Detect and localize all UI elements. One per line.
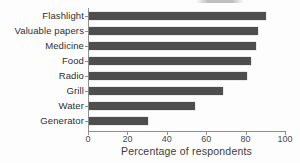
x-axis-tick-label: 40 — [154, 134, 180, 144]
y-axis-tick — [85, 76, 88, 77]
bar — [89, 117, 148, 125]
y-axis-tick — [85, 46, 88, 47]
bar — [89, 102, 195, 110]
x-axis-title: Percentage of respondents — [88, 145, 285, 157]
y-axis-tick — [85, 16, 88, 17]
x-axis-tick-label: 20 — [114, 134, 140, 144]
bar — [89, 42, 256, 50]
category-label: Valuable papers — [0, 24, 84, 38]
category-label: Medicine — [0, 39, 84, 53]
x-axis-tick-label: 60 — [193, 134, 219, 144]
category-label: Radio — [0, 69, 84, 83]
category-label: Water — [0, 99, 84, 113]
y-axis-tick — [85, 121, 88, 122]
x-axis-tick-label: 0 — [75, 134, 101, 144]
category-label: Grill — [0, 84, 84, 98]
y-axis-tick — [85, 106, 88, 107]
scan-artifact — [196, 0, 244, 3]
y-axis-tick — [85, 61, 88, 62]
bar — [89, 72, 247, 80]
category-label: Flashlight — [0, 9, 84, 23]
bar — [89, 27, 258, 35]
bar — [89, 12, 266, 20]
bar — [89, 87, 223, 95]
y-axis-tick — [85, 31, 88, 32]
x-axis-tick-label: 100 — [272, 134, 298, 144]
y-axis-tick — [85, 91, 88, 92]
category-label: Generator — [0, 114, 84, 128]
x-axis-line — [88, 131, 286, 132]
bar — [89, 57, 251, 65]
x-axis-tick-label: 80 — [233, 134, 259, 144]
bar-chart: FlashlightValuable papersMedicineFoodRad… — [0, 0, 300, 163]
category-label: Food — [0, 54, 84, 68]
